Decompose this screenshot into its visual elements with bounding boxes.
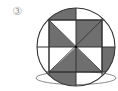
shade-right-lower-segment <box>102 47 118 72</box>
center-point <box>75 46 78 49</box>
geometry-figure <box>0 0 118 91</box>
shade-bottom-left-segment <box>49 72 76 91</box>
